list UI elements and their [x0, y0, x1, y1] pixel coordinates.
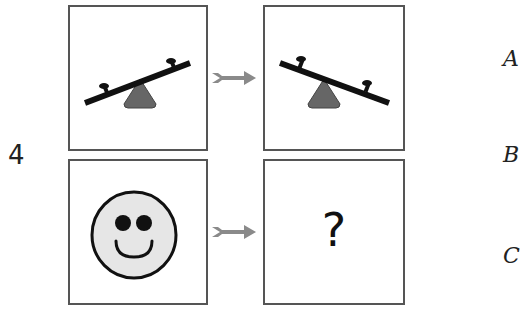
arrow-right-icon: [212, 70, 258, 86]
seesaw-icon: [265, 7, 403, 149]
smiley-face-icon: [70, 161, 206, 303]
panel-top-right: [263, 5, 405, 151]
option-c-label: C: [503, 243, 520, 268]
option-a-label: A: [503, 46, 519, 71]
panel-bottom-left: [68, 159, 208, 305]
option-b-label: B: [503, 142, 519, 167]
question-number: 4: [8, 140, 25, 170]
seesaw-icon: [70, 7, 206, 149]
arrow-right-icon: [212, 224, 258, 240]
panel-top-left: [68, 5, 208, 151]
panel-bottom-right: ?: [263, 159, 405, 305]
answer-placeholder: ?: [265, 203, 403, 257]
